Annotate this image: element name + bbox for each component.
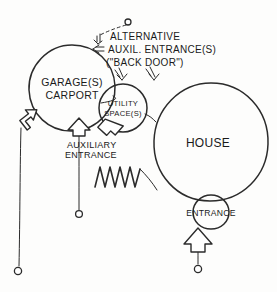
house-label: HOUSE	[186, 136, 230, 150]
callout-origin-dot[interactable]	[125, 19, 131, 25]
hollow-arrow-into-garage-bottom	[68, 118, 90, 136]
aux-entrance-line1: AUXILIARY	[67, 140, 117, 150]
wall-zigzag	[95, 167, 140, 187]
arrow-to-garage-upper	[94, 34, 102, 44]
garage-label-line1: GARAGE(S)	[41, 76, 103, 88]
annotation-auxiliary-entrance: AUXILIARY ENTRANCE	[65, 140, 117, 160]
leader-garage-left-line	[19, 128, 21, 266]
arrow-to-garage-upper-shaft	[97, 34, 100, 42]
arrow-down-to-utility	[115, 68, 127, 80]
node-entrance[interactable]: ENTRANCE	[186, 195, 236, 229]
leader-garage-left-dot[interactable]	[14, 267, 21, 274]
garage-label-line2: CARPORT	[45, 89, 99, 101]
arrow-to-garage-upper-head	[94, 40, 102, 44]
connector-utility-house	[145, 114, 156, 122]
entrance-label: ENTRANCE	[186, 208, 236, 218]
node-garage[interactable]: GARAGE(S) CARPORT	[29, 45, 115, 131]
wall-zigzag-tail	[140, 169, 157, 190]
arrow-down-to-house	[146, 67, 159, 80]
leader-entrance[interactable]	[184, 228, 212, 273]
leader-garage-bottom[interactable]	[68, 118, 90, 217]
alt-aux-line3: ("BACK DOOR")	[106, 57, 184, 68]
bubble-diagram: GARAGE(S) CARPORT UTILITY SPACE(S) HOUSE…	[0, 0, 277, 292]
leader-entrance-dot[interactable]	[194, 265, 201, 272]
leader-garage-left[interactable]	[14, 104, 43, 274]
arrow-to-garage-lower-shaft	[96, 47, 104, 51]
node-house[interactable]: HOUSE	[154, 83, 268, 201]
alt-aux-line1: ALTERNATIVE	[110, 31, 180, 42]
aux-entrance-line2: ENTRANCE	[65, 150, 117, 160]
annotation-alternative-auxiliary: ALTERNATIVE AUXIL. ENTRANCE(S) ("BACK DO…	[106, 31, 216, 68]
leader-garage-bottom-dot[interactable]	[76, 211, 83, 218]
diagram-canvas: GARAGE(S) CARPORT UTILITY SPACE(S) HOUSE…	[0, 0, 277, 292]
arrow-down-to-utility-shaft	[115, 68, 123, 77]
alt-aux-line2: AUXIL. ENTRANCE(S)	[108, 44, 216, 55]
hollow-arrow-into-entrance	[184, 228, 212, 252]
utility-label-line2: SPACE(S)	[104, 109, 142, 118]
